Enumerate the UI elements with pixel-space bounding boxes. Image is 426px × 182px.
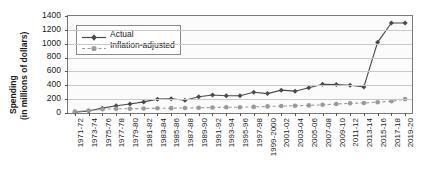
x-axis-tick-label: 2019-20 (407, 118, 415, 147)
data-point-marker (265, 91, 270, 96)
data-point-marker (100, 107, 105, 112)
y-axis-tick (65, 30, 68, 31)
data-point-marker (114, 107, 119, 112)
x-axis-tick-label: 1991-92 (215, 118, 223, 147)
gridline (68, 44, 412, 45)
y-axis-tick-label: 600 (47, 66, 61, 75)
y-axis-tick (65, 16, 68, 17)
data-point-marker (307, 103, 312, 108)
x-axis-tick-label: 1983-84 (160, 118, 168, 147)
x-axis-tick-label: 2005-06 (311, 118, 319, 147)
x-axis-tick-label: 1971-72 (77, 118, 85, 147)
data-point-marker (265, 104, 270, 109)
spending-line-chart: Spending (in millions of dollars) 020040… (0, 0, 426, 182)
gridline (68, 30, 412, 31)
x-axis-tick-label: 1981-82 (146, 118, 154, 147)
x-axis-tick-label: 1975-76 (105, 118, 113, 147)
x-axis-tick-label: 1997-98 (256, 118, 264, 147)
x-axis-tick-label: 1987-88 (187, 118, 195, 147)
data-point-marker (293, 89, 298, 94)
data-point-marker (127, 101, 132, 106)
y-axis-tick (65, 44, 68, 45)
x-axis-tick-label: 1973-74 (91, 118, 99, 147)
data-point-marker (155, 106, 160, 111)
y-axis-title-line2: (in millions of dollars) (19, 32, 29, 120)
x-axis-tick-label: 1985-86 (173, 118, 181, 147)
data-point-marker (362, 101, 367, 106)
y-axis-tick-label: 200 (47, 94, 61, 103)
y-axis-tick-label: 1200 (42, 25, 61, 34)
legend-label-actual: Actual (110, 30, 134, 39)
x-axis-tick-label: 1999-2000 (270, 118, 278, 156)
data-point-marker (210, 92, 215, 97)
data-point-marker (128, 106, 133, 111)
gridline (68, 58, 412, 59)
x-axis-tick-label: 2013-14 (366, 118, 374, 147)
plot-area: Actual Inflation-adjusted (67, 15, 413, 114)
data-point-marker (279, 104, 284, 109)
x-axis-tick-label: 2007-08 (325, 118, 333, 147)
data-point-marker (251, 105, 256, 110)
x-axis-tick-label: 1995-96 (242, 118, 250, 147)
data-point-marker (224, 93, 229, 98)
data-point-marker (375, 100, 380, 105)
data-point-marker (210, 105, 215, 110)
y-axis-tick-label: 0 (56, 108, 61, 117)
y-axis-tick-label: 400 (47, 80, 61, 89)
legend-label-inflation-adjusted: Inflation-adjusted (110, 41, 175, 50)
data-point-marker (251, 90, 256, 95)
data-point-marker (141, 106, 146, 111)
legend-item-inflation-adjusted: Inflation-adjusted (81, 40, 175, 51)
gridline (68, 99, 412, 100)
data-point-marker (348, 101, 353, 106)
x-axis-tick-label: 2015-16 (380, 118, 388, 147)
data-point-marker (224, 105, 229, 110)
y-axis-tick-labels: 0200400600800100012001400 (30, 0, 63, 122)
data-point-marker (141, 99, 146, 104)
x-axis-tick-label: 1979-80 (132, 118, 140, 147)
data-point-marker (334, 102, 339, 107)
data-point-marker (320, 103, 325, 108)
y-axis-tick (65, 85, 68, 86)
x-axis-tick-labels: 1971-721973-741975-761977-781979-801981-… (67, 116, 413, 182)
legend-marker-inflation-adjusted-icon (81, 40, 107, 51)
data-point-marker (238, 93, 243, 98)
data-point-marker (403, 20, 408, 25)
data-point-marker (279, 88, 284, 93)
data-point-marker (293, 103, 298, 108)
y-axis-title-line1: Spending (8, 75, 18, 114)
data-point-marker (238, 105, 243, 110)
y-axis-tick-label: 1000 (42, 39, 61, 48)
x-axis-tick-label: 2017-18 (394, 118, 402, 147)
y-axis-tick-label: 1400 (42, 11, 61, 20)
y-axis-tick-label: 800 (47, 52, 61, 61)
y-axis-tick (65, 71, 68, 72)
x-axis-tick-label: 2003-04 (297, 118, 305, 147)
data-point-marker (196, 106, 201, 111)
data-point-marker (169, 106, 174, 111)
x-axis-tick-label: 2009-10 (339, 118, 347, 147)
gridline (68, 71, 412, 72)
x-axis-tick-label: 2001-02 (283, 118, 291, 147)
gridline (68, 85, 412, 86)
x-axis-tick-label: 1993-94 (228, 118, 236, 147)
y-axis-tick (65, 58, 68, 59)
x-axis-tick-label: 1977-78 (118, 118, 126, 147)
y-axis-title: Spending (in millions of dollars) (0, 0, 30, 122)
x-axis-tick-label: 2011-12 (352, 118, 360, 147)
data-point-marker (183, 106, 188, 111)
y-axis-tick (65, 99, 68, 100)
x-axis-tick-label: 1989-90 (201, 118, 209, 147)
y-axis-tick (65, 113, 68, 114)
